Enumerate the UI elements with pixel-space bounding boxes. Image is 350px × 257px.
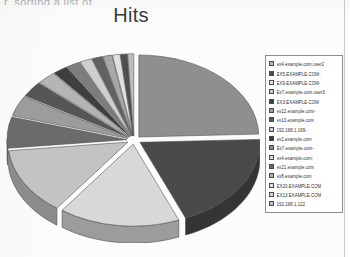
legend-item-label: ex8.example.com — [277, 171, 312, 180]
legend-item: Ex7.example.com- — [269, 143, 340, 152]
legend-swatch-icon — [269, 155, 274, 160]
pie-chart — [2, 28, 260, 243]
legend-item-label: 192.168.1.169- — [277, 124, 307, 133]
legend-item-label: ex12.example.com- — [277, 106, 316, 115]
pie-slice — [139, 55, 259, 137]
legend-swatch-icon — [269, 71, 274, 76]
legend-item-label: EX3.EXAMPLE.COM — [277, 96, 319, 105]
legend-item: ex2.example.com — [269, 134, 340, 143]
legend-item: ex10.example.com — [269, 115, 340, 124]
chart-legend: ex4.example.com.user2EX5.EXAMPLE.COM-EX9… — [265, 55, 343, 213]
legend-item: ex8.example.com — [269, 171, 340, 180]
legend-swatch-icon — [269, 61, 274, 66]
legend-item-label: EX13.EXAMPLE.COM — [277, 190, 322, 199]
legend-item: ex21.example.com — [269, 162, 340, 171]
legend-item-label: ex4.example.com- — [277, 152, 314, 161]
legend-item-label: ex4.example.com.user2 — [277, 59, 325, 68]
legend-swatch-icon — [269, 183, 274, 188]
legend-item-label: ex21.example.com — [277, 162, 315, 171]
legend-item-label: ex10.example.com — [277, 115, 315, 124]
legend-swatch-icon — [269, 192, 274, 197]
legend-item: ex4.example.com- — [269, 152, 340, 161]
legend-item: 192.168.1.122 — [269, 199, 340, 208]
legend-item: EX3.EXAMPLE.COM — [269, 96, 340, 105]
legend-swatch-icon — [269, 145, 274, 150]
legend-item: Ex7.example.com.user3 — [269, 87, 340, 96]
legend-item-label: ex2.example.com — [277, 134, 312, 143]
legend-item: ex12.example.com- — [269, 106, 340, 115]
legend-swatch-icon — [269, 99, 274, 104]
legend-item: EX9.EXAMPLE.COM- — [269, 78, 340, 87]
pie-chart-svg — [2, 28, 260, 243]
chart-title: Hits — [0, 4, 262, 27]
legend-item-label: EX20.EXAMPLE.COM — [277, 180, 322, 189]
legend-swatch-icon — [269, 173, 274, 178]
legend-item-label: EX9.EXAMPLE.COM- — [277, 78, 321, 87]
legend-item-label: Ex7.example.com.user3 — [277, 87, 325, 96]
legend-swatch-icon — [269, 164, 274, 169]
legend-swatch-icon — [269, 117, 274, 122]
legend-swatch-icon — [269, 136, 274, 141]
legend-item-label: EX5.EXAMPLE.COM- — [277, 68, 321, 77]
legend-swatch-icon — [269, 89, 274, 94]
legend-item: EX13.EXAMPLE.COM — [269, 190, 340, 199]
legend-swatch-icon — [269, 127, 274, 132]
legend-swatch-icon — [269, 201, 274, 206]
legend-item: EX20.EXAMPLE.COM — [269, 180, 340, 189]
legend-swatch-icon — [269, 108, 274, 113]
legend-item: ex4.example.com.user2 — [269, 59, 340, 68]
page-margin-rule — [344, 0, 345, 257]
legend-item-label: 192.168.1.122 — [277, 199, 306, 208]
pie-slice-tops — [7, 54, 260, 226]
legend-item: 192.168.1.169- — [269, 124, 340, 133]
legend-item-label: Ex7.example.com- — [277, 143, 314, 152]
legend-item: EX5.EXAMPLE.COM- — [269, 68, 340, 77]
legend-swatch-icon — [269, 80, 274, 85]
